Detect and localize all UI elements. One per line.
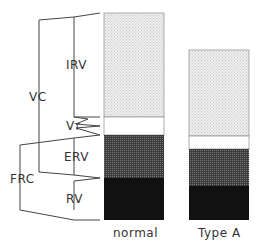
- label-vt: VT: [66, 119, 80, 133]
- label-vc: VC: [29, 90, 47, 104]
- bar-label-type-a: Type A: [198, 226, 241, 240]
- brackets: [20, 13, 100, 220]
- segment-irv-normal: [104, 13, 164, 117]
- segment-vt-normal: [104, 117, 164, 135]
- segment-irv-type-a: [189, 50, 249, 136]
- segment-erv-type-a: [189, 149, 249, 186]
- segment-vt-type-a: [189, 136, 249, 149]
- segment-rv-normal: [104, 178, 164, 220]
- bar-type-a: [189, 50, 249, 220]
- lung-volume-diagram: [0, 0, 261, 250]
- label-irv: IRV: [66, 58, 87, 72]
- label-rv: RV: [66, 192, 83, 206]
- segment-erv-normal: [104, 135, 164, 178]
- bar-normal: [104, 13, 164, 220]
- label-erv: ERV: [64, 150, 89, 164]
- bar-label-normal: normal: [113, 226, 158, 240]
- segment-rv-type-a: [189, 186, 249, 220]
- label-frc: FRC: [10, 172, 35, 186]
